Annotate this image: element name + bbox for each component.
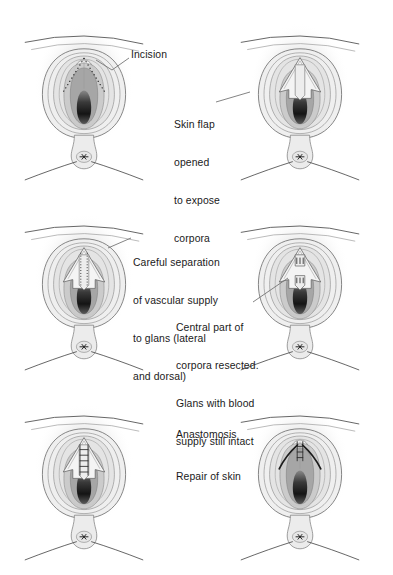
leader-skin-flap	[216, 92, 250, 102]
label-corpora-resected-line-1: Central part of	[176, 322, 259, 335]
panel-anastomosis	[25, 403, 143, 560]
panel-skin-flap-opened	[241, 23, 359, 180]
label-corpora-resected-line-3: Glans with blood	[176, 398, 259, 411]
label-repair-of-skin: Repair of skin	[176, 471, 241, 484]
panel-vascular-separation	[25, 213, 143, 370]
panel-incision	[25, 23, 143, 180]
surgical-illustration-figure: Incision Skin flap opened to expose corp…	[0, 0, 393, 575]
label-incision: Incision	[131, 49, 167, 62]
label-anastomosis: Anastomosis	[176, 429, 237, 442]
label-skin-flap-line-2: opened	[174, 157, 220, 170]
label-corpora-resected-line-2: corpora resected.	[176, 360, 259, 373]
label-vascular-separation-line-1: Careful separation	[133, 257, 220, 270]
label-skin-flap-line-1: Skin flap	[174, 119, 220, 132]
label-skin-flap-line-3: to expose	[174, 195, 220, 208]
